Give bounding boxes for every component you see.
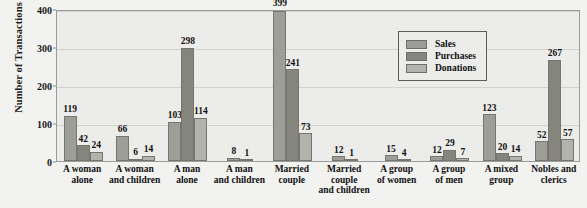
bar-value-label: 7 — [461, 148, 466, 158]
bar-value-label: 29 — [445, 139, 455, 149]
legend-item-donations[interactable]: Donations — [406, 63, 476, 73]
bar-donations[interactable] — [240, 159, 253, 161]
bar-item[interactable]: 42 — [77, 11, 90, 161]
bar-value-label: 12 — [432, 146, 442, 156]
bar-donations[interactable] — [561, 139, 574, 161]
bar-purchases[interactable] — [548, 60, 561, 161]
legend-label: Donations — [435, 63, 476, 73]
bar-item[interactable]: 66 — [116, 11, 129, 161]
bar-item[interactable]: 6 — [129, 11, 142, 161]
bar-purchases[interactable] — [181, 48, 194, 161]
x-axis-label: A mixedgroup — [475, 164, 527, 185]
bar-sales[interactable] — [116, 136, 129, 161]
bar-donations[interactable] — [299, 133, 312, 161]
legend-label: Purchases — [435, 51, 476, 61]
bar-item[interactable]: 12 — [332, 11, 345, 161]
bar-group: 1194224 — [57, 11, 109, 161]
y-tick-label: 100 — [18, 119, 52, 130]
legend-item-sales[interactable]: Sales — [406, 39, 476, 49]
bar-sales[interactable] — [385, 155, 398, 161]
bar-value-label: 24 — [91, 141, 101, 151]
bar-value-label: 103 — [168, 111, 182, 121]
bar-group: 121 — [319, 11, 371, 161]
bar-item[interactable]: 14 — [142, 11, 155, 161]
legend-swatch-donations — [406, 64, 427, 73]
x-axis-label: Marriedcoupleand children — [318, 164, 370, 196]
bar-donations[interactable] — [194, 118, 207, 161]
bar-item[interactable]: 1 — [345, 11, 358, 161]
bar-donations[interactable] — [509, 156, 522, 161]
bar-item[interactable]: 103 — [168, 11, 181, 161]
bar-value-label: 66 — [118, 125, 128, 135]
bar-item[interactable]: 20 — [496, 11, 509, 161]
y-tick-label: 200 — [18, 81, 52, 92]
bar-item[interactable]: 57 — [561, 11, 574, 161]
bar-purchases[interactable] — [286, 69, 299, 161]
x-axis-label: A manalone — [161, 164, 213, 185]
bar-item[interactable]: 52 — [535, 11, 548, 161]
chart-legend: SalesPurchasesDonations — [398, 31, 487, 81]
bar-group: 5226757 — [529, 11, 581, 161]
bar-value-label: 4 — [402, 149, 407, 159]
bar-value-label: 15 — [386, 145, 396, 155]
bar-sales[interactable] — [227, 158, 240, 161]
bar-value-label: 241 — [286, 59, 300, 69]
bar-item[interactable]: 24 — [90, 11, 103, 161]
bar-item[interactable]: 1 — [240, 11, 253, 161]
bar-value-label: 267 — [548, 49, 562, 59]
bar-donations[interactable] — [456, 158, 469, 161]
bar-value-label: 57 — [563, 129, 573, 139]
bar-donations[interactable] — [345, 159, 358, 161]
bar-item[interactable]: 73 — [299, 11, 312, 161]
bar-donations[interactable] — [398, 159, 411, 161]
bar-sales[interactable] — [64, 116, 77, 161]
bar-item[interactable]: 119 — [64, 11, 77, 161]
bar-item[interactable]: 8 — [227, 11, 240, 161]
x-axis-label: A manand children — [213, 164, 265, 185]
legend-swatch-sales — [406, 40, 427, 49]
bar-sales[interactable] — [273, 11, 286, 161]
bar-group: 103298114 — [162, 11, 214, 161]
legend-item-purchases[interactable]: Purchases — [406, 51, 476, 61]
x-axis-label: Marriedcouple — [266, 164, 318, 185]
bar-value-label: 14 — [144, 145, 154, 155]
bar-sales[interactable] — [332, 156, 345, 161]
bar-value-label: 1 — [245, 149, 250, 159]
bar-value-label: 399 — [273, 0, 287, 8]
bar-value-label: 123 — [482, 104, 496, 114]
bar-purchases[interactable] — [496, 153, 509, 161]
bar-purchases[interactable] — [129, 159, 142, 161]
bar-value-label: 73 — [301, 123, 311, 133]
bar-donations[interactable] — [142, 156, 155, 161]
bar-item[interactable]: 15 — [385, 11, 398, 161]
bar-item[interactable]: 14 — [509, 11, 522, 161]
bar-sales[interactable] — [535, 141, 548, 161]
bar-item[interactable]: 267 — [548, 11, 561, 161]
x-axis-label: A groupof women — [370, 164, 422, 185]
bar-sales[interactable] — [430, 156, 443, 161]
bar-value-label: 42 — [78, 135, 88, 145]
bar-value-label: 12 — [334, 146, 344, 156]
x-axis-label: A womanand children — [108, 164, 160, 185]
y-tick-label: 0 — [18, 157, 52, 168]
bar-value-label: 1 — [349, 149, 354, 159]
bar-item[interactable]: 114 — [194, 11, 207, 161]
bar-donations[interactable] — [90, 152, 103, 161]
bar-item[interactable]: 298 — [181, 11, 194, 161]
bar-value-label: 14 — [511, 145, 521, 155]
bar-value-label: 8 — [232, 147, 237, 157]
bar-sales[interactable] — [168, 122, 181, 161]
y-tick-label: 300 — [18, 43, 52, 54]
bar-sales[interactable] — [483, 114, 496, 161]
x-axis-label: Nobles andclerics — [528, 164, 580, 185]
bar-group: 39924173 — [267, 11, 319, 161]
plot-area: 1194224666141032981148139924173121154122… — [56, 10, 580, 162]
bar-purchases[interactable] — [443, 150, 456, 161]
bar-item[interactable]: 241 — [286, 11, 299, 161]
bar-item[interactable]: 399 — [273, 11, 286, 161]
y-tick-label: 400 — [18, 5, 52, 16]
bar-purchases[interactable] — [77, 145, 90, 161]
x-axis-label: A womanalone — [56, 164, 108, 185]
bar-value-label: 298 — [181, 37, 195, 47]
bar-value-label: 52 — [537, 131, 547, 141]
